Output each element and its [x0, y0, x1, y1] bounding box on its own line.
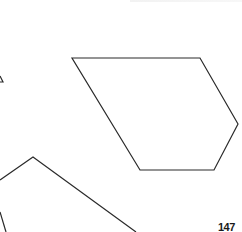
page-number: 147: [218, 222, 235, 232]
lower-edge-shape: [0, 212, 6, 232]
lower-polygon-shape: [0, 157, 136, 232]
geometric-figure: [0, 0, 242, 232]
left-triangle-tip-shape: [0, 76, 3, 82]
pentagon-shape: [72, 58, 238, 170]
